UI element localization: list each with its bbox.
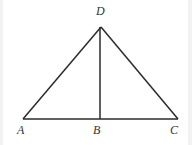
vertex-label-a: A: [17, 124, 24, 136]
vertex-label-d: D: [96, 5, 105, 17]
vertex-label-c: C: [170, 124, 178, 136]
segment-side-AD: [23, 27, 101, 119]
vertex-label-b: B: [93, 124, 100, 136]
segment-side-DC: [101, 27, 178, 119]
geometry-figure: A B C D: [0, 0, 192, 145]
